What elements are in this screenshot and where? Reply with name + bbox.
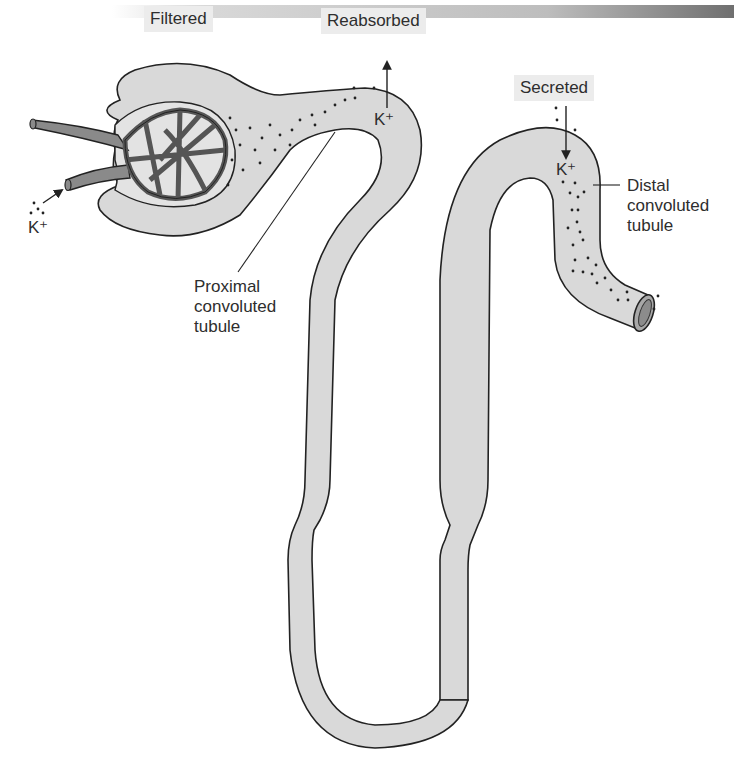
k-ion-afferent-label: K⁺	[28, 218, 48, 238]
efferent-arteriole	[32, 120, 128, 150]
distal-convoluted-tubule-label: Distal convoluted tubule	[627, 176, 709, 236]
filtered-label: Filtered	[144, 6, 213, 32]
k-ion-secreted-label: K⁺	[556, 160, 576, 180]
k-ion-reabsorbed-label: K⁺	[374, 110, 394, 130]
secreted-label: Secreted	[514, 75, 594, 101]
ascending-limb-and-distal-tubule	[440, 128, 648, 700]
reabsorbed-label: Reabsorbed	[321, 8, 426, 34]
afferent-entry-arrow	[43, 190, 62, 203]
nephron-diagram: Filtered Reabsorbed Secreted K⁺ K⁺ K⁺ Pr…	[0, 0, 755, 757]
proximal-convoluted-tubule-label: Proximal convoluted tubule	[194, 277, 276, 337]
